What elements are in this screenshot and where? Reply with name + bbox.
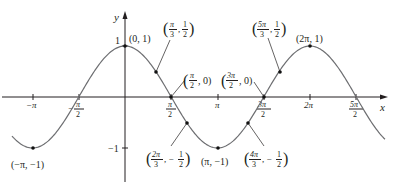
svg-text:π: π xyxy=(190,71,195,80)
tick-label-neg-pi: −π xyxy=(26,100,37,110)
label-4pi3: ( 4π 3 , − 1 2 ) xyxy=(244,150,288,169)
point-5pi3 xyxy=(278,70,282,74)
x-axis-arrow-icon xyxy=(380,95,388,100)
label-zero: (0, 1) xyxy=(129,33,151,45)
tick-label-2pi: 2π xyxy=(304,100,314,110)
svg-text:1: 1 xyxy=(179,150,183,159)
tick-label-3pi2-num: 3π xyxy=(257,100,267,109)
svg-text:): ) xyxy=(185,150,190,168)
tick-label-neg-pi2-den: 2 xyxy=(76,110,80,119)
tick-label-pi2-num: π xyxy=(168,100,173,109)
label-pi3: ( π 3 , 1 2 ) xyxy=(163,20,194,39)
svg-text:(: ( xyxy=(146,150,151,168)
svg-text:,: , xyxy=(178,24,180,34)
label-neg-pi: (−π, −1) xyxy=(11,159,44,171)
svg-text:2π: 2π xyxy=(152,150,161,159)
x-tick-labels: −π − π 2 π 2 π 3π 2 2π 5π 2 xyxy=(26,100,363,119)
svg-text:(: ( xyxy=(221,72,226,90)
tick-label-y-neg1: −1 xyxy=(108,143,119,154)
label-pi: (π, −1) xyxy=(201,156,228,168)
svg-text:): ) xyxy=(281,20,286,38)
point-pi2 xyxy=(169,95,173,99)
svg-text:3: 3 xyxy=(260,30,264,39)
tick-label-3pi2-den: 2 xyxy=(261,110,265,119)
svg-text:2: 2 xyxy=(275,30,279,39)
svg-text:4π: 4π xyxy=(250,150,259,159)
svg-text:): ) xyxy=(189,20,194,38)
point-zero xyxy=(123,44,127,48)
point-2pi xyxy=(308,44,312,48)
point-neg-pi xyxy=(31,146,35,150)
label-2pi: (2π, 1) xyxy=(296,33,323,45)
svg-text:2: 2 xyxy=(190,81,194,90)
svg-text:1: 1 xyxy=(183,20,187,29)
svg-text:, −: , − xyxy=(164,154,174,164)
x-axis-label: x xyxy=(379,101,385,113)
label-3pi2: ( 3π 2 , 0) xyxy=(221,71,252,90)
svg-text:1: 1 xyxy=(277,150,281,159)
svg-text:3π: 3π xyxy=(226,71,236,80)
svg-text:, 0): , 0) xyxy=(198,75,211,87)
svg-text:,: , xyxy=(270,24,272,34)
svg-text:2: 2 xyxy=(229,81,233,90)
svg-text:3: 3 xyxy=(154,160,158,169)
svg-text:3: 3 xyxy=(170,30,174,39)
tick-label-pi2-den: 2 xyxy=(168,110,172,119)
svg-text:5π: 5π xyxy=(258,20,267,29)
svg-text:3: 3 xyxy=(252,160,256,169)
svg-text:2: 2 xyxy=(183,30,187,39)
tick-label-5pi2-num: 5π xyxy=(350,100,359,109)
point-3pi2 xyxy=(262,95,266,99)
cosine-graph: x y −π − π 2 π 2 π 3π 2 2π 5π 2 1 −1 xyxy=(0,0,397,191)
svg-text:, 0): , 0) xyxy=(239,75,252,87)
svg-text:(: ( xyxy=(244,150,249,168)
svg-text:2: 2 xyxy=(179,160,183,169)
label-5pi3: ( 5π 3 , 1 2 ) xyxy=(252,20,286,39)
leader-lines xyxy=(156,38,280,146)
point-pi xyxy=(216,146,220,150)
label-2pi3: ( 2π 3 , − 1 2 ) xyxy=(146,150,190,169)
svg-text:, −: , − xyxy=(262,154,272,164)
tick-label-y-1: 1 xyxy=(115,35,120,46)
svg-text:(: ( xyxy=(163,20,168,38)
svg-text:1: 1 xyxy=(275,20,279,29)
svg-text:2: 2 xyxy=(277,160,281,169)
y-axis-arrow-icon xyxy=(123,11,128,19)
point-4pi3 xyxy=(246,121,250,125)
tick-label-5pi2-den: 2 xyxy=(353,110,357,119)
point-pi3 xyxy=(154,70,158,74)
svg-text:(: ( xyxy=(183,72,188,90)
point-2pi3 xyxy=(185,121,189,125)
y-axis-label: y xyxy=(113,11,119,23)
tick-label-pi: π xyxy=(215,100,220,110)
label-pi2: ( π 2 , 0) xyxy=(183,71,211,90)
svg-text:): ) xyxy=(283,150,288,168)
axes: x y xyxy=(2,11,388,182)
svg-text:π: π xyxy=(170,20,175,29)
svg-text:(: ( xyxy=(252,20,257,38)
point-labels: (−π, −1) (0, 1) (π, −1) (2π, 1) ( π 3 , … xyxy=(11,20,323,171)
